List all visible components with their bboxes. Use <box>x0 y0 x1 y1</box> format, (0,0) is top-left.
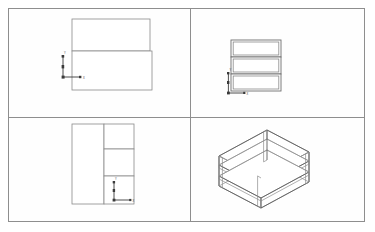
viewport-top-view[interactable]: Y X <box>9 9 190 117</box>
side-tall-panel <box>72 124 104 204</box>
axis-label-y: Y <box>229 68 231 72</box>
axis-label-x: X <box>83 76 85 80</box>
axis-label-x: X <box>247 92 249 96</box>
plan-upper-panel <box>72 19 150 51</box>
axis-label-y: Y <box>64 51 66 55</box>
axis-label-y: Y <box>115 177 117 181</box>
viewport-side-view[interactable]: Y X <box>9 118 190 221</box>
plan-lower-panel <box>72 51 152 90</box>
viewport-front-view[interactable]: Y X <box>191 9 364 117</box>
isometric-shelf-unit <box>219 130 309 208</box>
front-shelf-bottom <box>231 74 281 91</box>
front-shelf-top <box>231 40 281 57</box>
side-shelf-top <box>104 124 134 149</box>
axis-label-x: X <box>132 199 134 203</box>
front-shelf-middle <box>231 57 281 74</box>
cad-drawing-canvas: Y X <box>0 0 375 232</box>
viewport-isometric-view[interactable] <box>191 118 364 221</box>
side-shelf-middle <box>104 149 134 176</box>
